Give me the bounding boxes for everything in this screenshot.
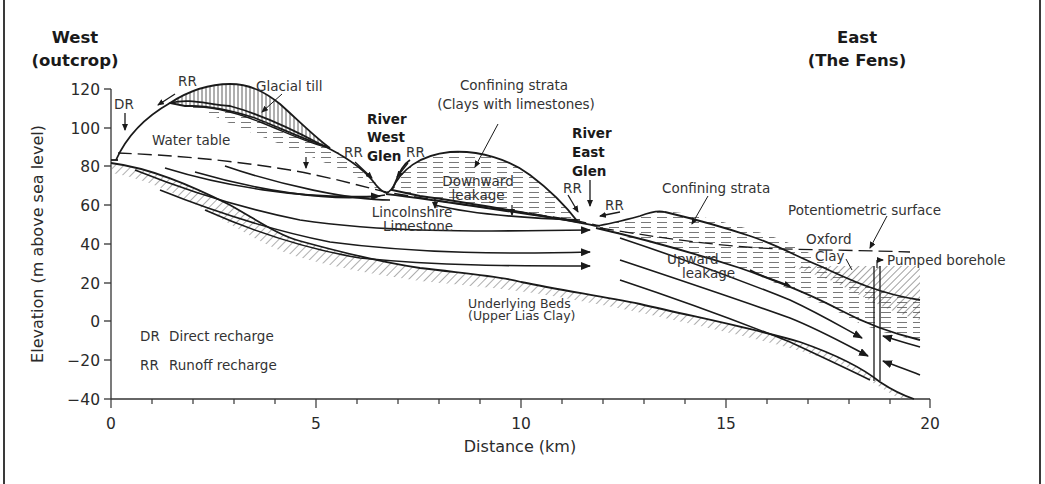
legend-code-rr: RR — [140, 357, 159, 373]
cross-section-diagram: 120 100 80 60 40 20 0 −20 −40 Elevation … — [0, 0, 1045, 484]
x-tick-10: 10 — [511, 415, 531, 433]
label-pumped-borehole: Pumped borehole — [887, 252, 1006, 268]
label-glacial-till: Glacial till — [256, 78, 323, 94]
y-axis — [104, 89, 111, 399]
west-heading-line1: West — [52, 28, 99, 47]
y-tick-120: 120 — [70, 81, 100, 99]
east-heading-line1: East — [837, 28, 877, 47]
label-water-table: Water table — [152, 132, 230, 148]
y-tick-20: 20 — [80, 275, 100, 293]
label-dr: DR — [114, 96, 134, 112]
label-oxford-1: Oxford — [806, 231, 852, 247]
y-tick-minus40: −40 — [67, 391, 100, 409]
y-tick-80: 80 — [80, 158, 100, 176]
legend: DR Direct recharge RR Runoff recharge — [140, 328, 277, 373]
y-tick-40: 40 — [80, 236, 100, 254]
label-river-east-3: Glen — [572, 163, 606, 179]
east-heading-line2: (The Fens) — [808, 51, 906, 70]
label-oxford-2: Clay — [815, 248, 844, 264]
y-axis-label: Elevation (m above sea level) — [28, 125, 47, 363]
label-river-west-3: Glen — [367, 148, 401, 164]
label-river-east-1: River — [572, 125, 612, 141]
label-confining-strata-east: Confining strata — [662, 180, 770, 196]
y-tick-60: 60 — [80, 197, 100, 215]
label-rr-west-glen-left: RR — [344, 144, 363, 160]
y-tick-100: 100 — [70, 120, 100, 138]
west-heading-line2: (outcrop) — [31, 51, 118, 70]
y-tick-0: 0 — [90, 313, 100, 331]
y-tick-labels: 120 100 80 60 40 20 0 −20 −40 — [67, 81, 100, 409]
label-downward-2: leakage — [451, 187, 504, 203]
label-rr-west: RR — [178, 73, 197, 89]
legend-text-dr: Direct recharge — [169, 328, 274, 344]
label-underlying-beds-2: (Upper Lias Clay) — [468, 308, 575, 323]
legend-code-dr: DR — [140, 328, 160, 344]
x-tick-labels: 0 5 10 15 20 — [106, 415, 940, 433]
x-tick-20: 20 — [920, 415, 940, 433]
x-tick-5: 5 — [311, 415, 321, 433]
label-river-east-2: East — [572, 144, 605, 160]
legend-text-rr: Runoff recharge — [169, 357, 277, 373]
x-tick-15: 15 — [716, 415, 736, 433]
label-rr-west-glen-right: RR — [406, 144, 425, 160]
x-axis-label: Distance (km) — [464, 437, 576, 456]
label-clays-with-limestones: (Clays with limestones) — [437, 96, 595, 112]
label-upward-2: leakage — [682, 265, 735, 281]
label-confining-strata: Confining strata — [460, 77, 568, 93]
label-river-west-1: River — [367, 111, 407, 127]
x-tick-0: 0 — [106, 415, 116, 433]
y-tick-minus20: −20 — [67, 352, 100, 370]
label-river-west-2: West — [367, 129, 406, 145]
label-lincolnshire-2: Limestone — [383, 218, 453, 234]
label-rr-east-glen-right: RR — [605, 197, 624, 213]
x-axis — [111, 399, 930, 408]
label-rr-east-glen-left: RR — [563, 180, 582, 196]
label-potentiometric-surface: Potentiometric surface — [788, 202, 941, 218]
